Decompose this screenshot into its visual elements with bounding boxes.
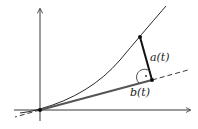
diagram-canvas: a(t) b(t) bbox=[0, 0, 198, 129]
tangent-line-dashed-right bbox=[152, 70, 188, 80]
label-a: a(t) bbox=[150, 51, 170, 64]
point-foot bbox=[150, 78, 154, 82]
point-curve bbox=[138, 35, 142, 39]
label-b: b(t) bbox=[130, 86, 150, 99]
point-origin bbox=[38, 108, 42, 112]
tangent-line-dashed-left bbox=[15, 110, 40, 117]
right-angle-dot bbox=[145, 75, 147, 77]
